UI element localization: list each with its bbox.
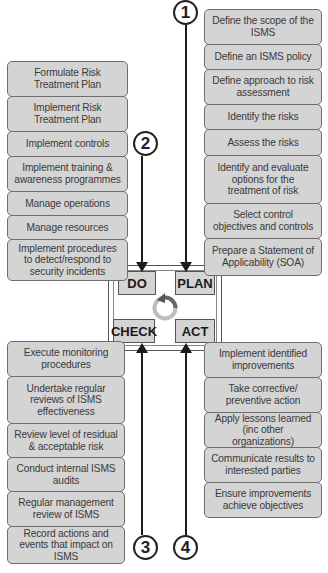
step-4-badge: 4 [173, 535, 198, 560]
act-item: Communicate results to interested partie… [204, 447, 322, 483]
check-item: Review level of residual & acceptable ri… [7, 423, 125, 458]
check-item: Undertake regular reviews of ISMS effect… [7, 376, 125, 424]
do-column: Formulate Risk Treatment Plan Implement … [7, 61, 128, 281]
do-item: Manage resources [7, 215, 128, 240]
arrow-up-icon [180, 343, 192, 353]
step-1-badge: 1 [173, 0, 198, 25]
plan-item: Identify and evaluate options for the tr… [204, 155, 322, 204]
act-item: Take corrective/ preventive action [204, 377, 322, 413]
act-item: Apply lessons learned (inc other organiz… [204, 412, 322, 448]
act-item: Ensure improvements achieve objectives [204, 482, 322, 518]
act-item: Implement identified improvements [204, 342, 322, 378]
do-connector-line [141, 156, 143, 265]
plan-item: Define approach to risk assessment [204, 69, 322, 105]
step-3-badge: 3 [133, 535, 158, 560]
check-item: Conduct internal ISMS audits [7, 457, 125, 492]
plan-item: Select control objectives and controls [204, 203, 322, 239]
do-item: Implement procedures to detect/respond t… [7, 239, 128, 281]
plan-item: Define the scope of the ISMS [204, 9, 322, 45]
check-item: Execute monitoring procedures [7, 341, 125, 377]
do-item: Implement training & awareness programme… [7, 156, 128, 192]
check-item: Regular management review of ISMS [7, 491, 125, 527]
plan-item: Assess the risks [204, 129, 322, 156]
check-item: Record actions and events that impact on… [7, 526, 125, 564]
plan-item: Identify the risks [204, 104, 322, 130]
do-item: Implement Risk Treatment Plan [7, 96, 128, 132]
plan-item: Define an ISMS policy [204, 44, 322, 70]
plan-column: Define the scope of the ISMS Define an I… [204, 9, 322, 276]
plan-item: Prepare a Statement of Applicability (SO… [204, 238, 322, 276]
check-column: Execute monitoring procedures Undertake … [7, 341, 125, 564]
arrow-down-icon [180, 262, 192, 272]
plan-connector-line [185, 25, 187, 265]
do-item: Manage operations [7, 191, 128, 216]
act-column: Implement identified improvements Take c… [204, 342, 322, 518]
do-item: Formulate Risk Treatment Plan [7, 61, 128, 97]
act-connector-line [185, 352, 187, 535]
step-2-badge: 2 [133, 131, 158, 156]
check-connector-line [141, 352, 143, 535]
cycle-arrow-icon [148, 291, 182, 325]
do-item: Implement controls [7, 131, 128, 157]
arrow-down-icon [136, 262, 148, 272]
arrow-up-icon [136, 343, 148, 353]
